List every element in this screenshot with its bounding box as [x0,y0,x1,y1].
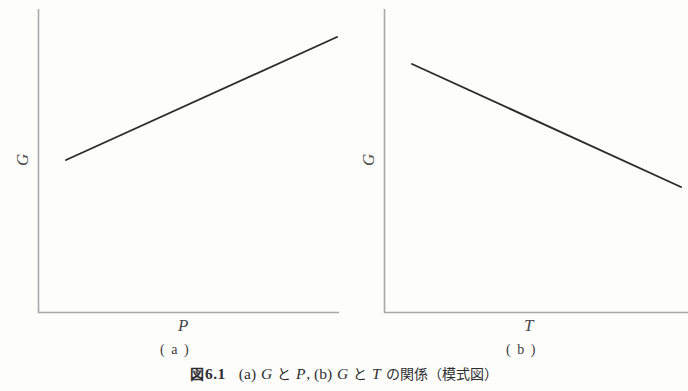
data-line-a [66,37,337,160]
caption-a-var1: G [260,365,273,382]
caption-b-conj: と [353,366,367,382]
caption-comma: , [306,365,310,382]
data-line-b [412,64,681,187]
caption-b-var1: G [336,365,349,382]
x-axis-label-a: P [178,317,189,334]
caption-a-var2: P [295,365,306,382]
plot-a-svg [0,0,345,340]
caption-a-conj: と [277,366,291,382]
chart-panel-b [345,0,688,340]
caption-figure-number: 6.1 [205,365,226,382]
caption-part-b: (b) [314,365,332,382]
caption-figure-word: 図 [190,366,205,382]
y-axis-label-b: G [360,152,377,168]
chart-panel-a [0,0,345,340]
caption-b-var2: T [371,365,382,382]
caption-part-a: (a) [239,365,256,382]
subcaption-a: ( a ) [160,342,190,358]
plot-b-svg [345,0,688,340]
x-axis-label-b: T [524,317,534,334]
figure-page: G P ( a ) G T ( b ) 図6.1(a) G と P, (b) G… [0,0,688,391]
figure-caption: 図6.1(a) G と P, (b) G と T の関係（模式図） [0,365,688,384]
caption-tail: の関係（模式図） [386,366,498,382]
y-axis-label-a: G [14,152,31,168]
subcaption-b: ( b ) [506,342,537,358]
